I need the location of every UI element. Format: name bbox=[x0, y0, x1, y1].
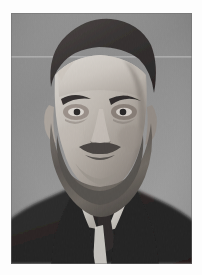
portrait-photograph-artwork bbox=[11, 13, 192, 264]
portrait-photograph bbox=[11, 13, 192, 264]
image-canvas: Black and white studio portrait of a bal… bbox=[0, 0, 202, 275]
film-grain bbox=[11, 13, 192, 264]
